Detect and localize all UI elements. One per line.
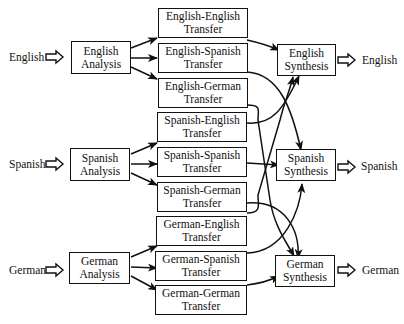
synthesis-box-spanish: Spanish Synthesis — [276, 149, 336, 181]
input-arrow-english-icon — [46, 51, 63, 63]
synthesis-box-english: English Synthesis — [277, 44, 336, 76]
transfer-line2: Transfer — [184, 58, 223, 71]
analysis-box-english: English Analysis — [71, 41, 131, 74]
transfer-line1: English-German — [165, 80, 241, 93]
analysis-line1: German — [81, 255, 118, 268]
analysis-line1: Spanish — [82, 152, 118, 165]
transfer-line1: Spanish-English — [164, 114, 239, 127]
transfer-box-german-german: German-German Transfer — [155, 285, 247, 315]
transfer-line2: Transfer — [182, 266, 221, 279]
transfer-box-english-german: English-German Transfer — [158, 78, 248, 108]
synthesis-line1: German — [286, 258, 323, 271]
transfer-line1: Spanish-German — [163, 184, 240, 197]
synthesis-line2: Synthesis — [284, 60, 328, 73]
transfer-box-spanish-english: Spanish-English Transfer — [157, 112, 247, 142]
synthesis-line1: English — [289, 47, 324, 60]
transfer-line2: Transfer — [183, 162, 222, 175]
analysis-box-german: German Analysis — [69, 252, 130, 284]
transfer-line2: Transfer — [184, 93, 223, 106]
analysis-line2: Analysis — [80, 165, 120, 178]
synthesis-line1: Spanish — [288, 152, 324, 165]
transfer-box-german-spanish: German-Spanish Transfer — [155, 251, 247, 281]
output-label-german: German — [362, 264, 399, 277]
synthesis-line2: Synthesis — [283, 271, 327, 284]
output-arrow-spanish-icon — [338, 161, 355, 173]
output-label-english: English — [362, 54, 397, 67]
output-label-spanish: Spanish — [361, 160, 397, 173]
transfer-line1: German-English — [163, 218, 239, 231]
analysis-line1: English — [83, 45, 118, 58]
input-arrow-spanish-icon — [46, 158, 63, 170]
transfer-line1: English-Spanish — [165, 45, 240, 58]
output-arrow-english-icon — [338, 54, 355, 66]
transfer-box-german-english: German-English Transfer — [156, 216, 247, 246]
transfer-line1: English-English — [166, 10, 240, 23]
analysis-line2: Analysis — [79, 268, 119, 281]
transfer-line2: Transfer — [182, 231, 221, 244]
input-label-english: English — [9, 51, 44, 64]
transfer-line2: Transfer — [183, 197, 222, 210]
analysis-box-spanish: Spanish Analysis — [70, 148, 130, 181]
output-arrow-german-icon — [338, 264, 355, 276]
synthesis-line2: Synthesis — [284, 165, 328, 178]
input-label-spanish: Spanish — [9, 158, 45, 171]
transfer-box-english-english: English-English Transfer — [158, 8, 248, 38]
transfer-line2: Transfer — [183, 127, 222, 140]
transfer-line2: Transfer — [182, 300, 221, 313]
transfer-line1: Spanish-Spanish — [164, 149, 241, 162]
analysis-line2: Analysis — [81, 58, 121, 71]
transfer-line1: German-Spanish — [162, 253, 239, 266]
transfer-box-spanish-spanish: Spanish-Spanish Transfer — [157, 147, 247, 177]
input-arrow-german-icon — [46, 264, 63, 276]
transfer-box-spanish-german: Spanish-German Transfer — [157, 182, 247, 212]
transfer-box-english-spanish: English-Spanish Transfer — [158, 43, 248, 73]
synthesis-box-german: German Synthesis — [275, 255, 335, 287]
transfer-line2: Transfer — [184, 23, 223, 36]
input-label-german: German — [9, 264, 46, 277]
transfer-line1: German-German — [162, 287, 240, 300]
